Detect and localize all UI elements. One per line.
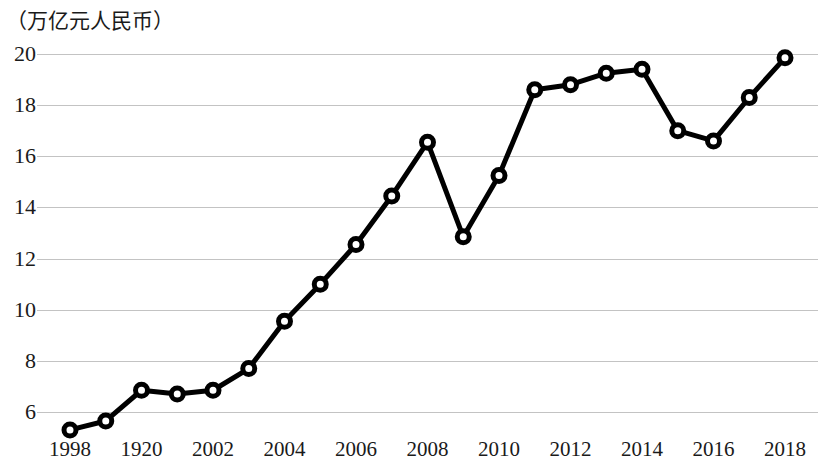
data-point-marker [100,415,112,427]
data-point-marker [314,278,326,290]
data-point-marker [529,84,541,96]
data-point-marker [565,79,577,91]
plot-area: 68101214161820 1998192020022004200620082… [0,0,822,467]
series-line [70,58,785,430]
data-point-marker [636,63,648,75]
data-point-marker [136,384,148,396]
data-point-marker [672,125,684,137]
data-point-marker [207,384,219,396]
data-point-marker [743,91,755,103]
data-point-marker [779,52,791,64]
data-point-marker [171,388,183,400]
data-point-marker [64,424,76,436]
data-point-marker [708,135,720,147]
line-series [0,0,822,467]
data-point-marker [493,169,505,181]
data-point-marker [600,67,612,79]
data-point-marker [279,315,291,327]
chart-page: （万亿元人民币） 68101214161820 1998192020022004… [0,0,822,467]
data-point-marker [243,363,255,375]
data-point-marker [350,239,362,251]
data-point-marker [457,231,469,243]
data-point-marker [386,190,398,202]
data-point-marker [422,136,434,148]
